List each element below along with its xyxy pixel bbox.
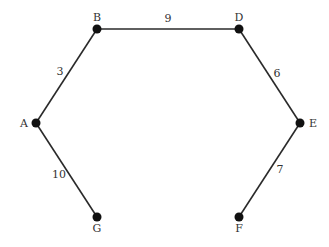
node-label: D — [235, 11, 244, 24]
edge-d-e — [239, 29, 300, 123]
edge-weight-label: 7 — [277, 163, 284, 176]
node-g — [93, 213, 102, 222]
node-e — [296, 119, 305, 128]
weighted-graph-diagram: 396710 ABDEFG — [0, 0, 329, 247]
node-label: G — [93, 222, 102, 235]
node-a — [32, 119, 41, 128]
node-f — [235, 213, 244, 222]
node-b — [93, 25, 102, 34]
node-label: E — [309, 117, 317, 130]
edge-e-f — [239, 123, 300, 217]
node-label: A — [19, 117, 29, 130]
edges-layer: 396710 — [36, 12, 300, 217]
edge-weight-label: 6 — [274, 67, 281, 80]
node-d — [235, 25, 244, 34]
node-label: F — [235, 222, 243, 235]
node-label: B — [93, 11, 101, 24]
edge-weight-label: 3 — [57, 65, 64, 78]
edge-a-g — [36, 123, 97, 217]
edge-weight-label: 9 — [165, 12, 172, 25]
edge-weight-label: 10 — [52, 168, 66, 181]
nodes-layer: ABDEFG — [19, 11, 317, 235]
edge-a-b — [36, 29, 97, 123]
